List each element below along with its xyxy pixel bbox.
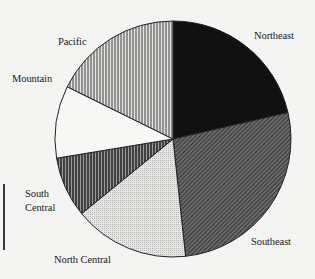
edge-line xyxy=(3,184,5,250)
label-south-central-line2: Central xyxy=(25,201,55,214)
label-northeast: Northeast xyxy=(254,29,294,42)
label-south-central-line1: South xyxy=(25,187,49,200)
label-north-central: North Central xyxy=(54,253,111,266)
label-mountain: Mountain xyxy=(12,72,52,85)
label-pacific: Pacific xyxy=(58,35,86,48)
label-southeast: Southeast xyxy=(251,235,291,248)
pie-slices xyxy=(55,21,291,257)
